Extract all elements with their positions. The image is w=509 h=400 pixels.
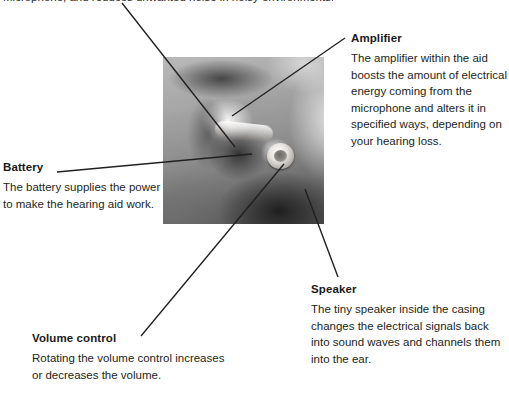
callout-amplifier-title: Amplifier <box>351 31 507 45</box>
callout-volume-control: Volume control Rotating the volume contr… <box>32 331 232 383</box>
callout-volume-control-body: Rotating the volume control increases or… <box>32 350 232 383</box>
hearing-aid-diagram-page: Microphone, and reduces unwanted noise i… <box>0 0 509 400</box>
callout-volume-control-title: Volume control <box>32 331 232 345</box>
callout-amplifier: Amplifier The amplifier within the aid b… <box>351 31 507 149</box>
callout-speaker-body: The tiny speaker inside the casing chang… <box>311 301 509 367</box>
hearing-aid-faceplate <box>267 143 294 169</box>
callout-speaker: Speaker The tiny speaker inside the casi… <box>311 282 509 367</box>
hearing-aid-photo <box>163 57 324 224</box>
callout-amplifier-body: The amplifier within the aid boosts the … <box>351 50 507 149</box>
callout-battery-title: Battery <box>3 160 163 174</box>
callout-battery: Battery The battery supplies the power t… <box>3 160 163 212</box>
clipped-top-text: Microphone, and reduces unwanted noise i… <box>3 0 333 6</box>
callout-speaker-title: Speaker <box>311 282 509 296</box>
ear-photograph <box>163 57 324 224</box>
callout-battery-body: The battery supplies the power to make t… <box>3 179 163 212</box>
